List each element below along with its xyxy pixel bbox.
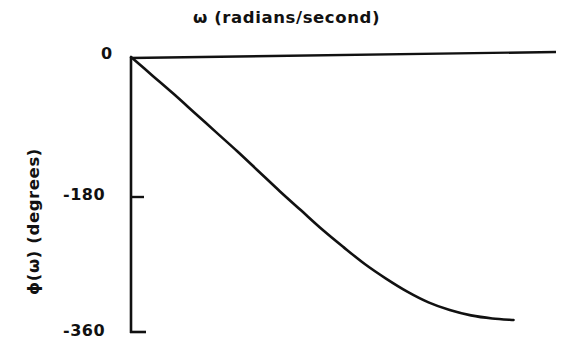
phase-response-curve <box>131 57 514 320</box>
x-axis-zero-line <box>130 52 556 58</box>
phase-plot-figure: ω (radians/second) ϕ(ω) (degrees) 0 -180… <box>0 0 573 354</box>
plot-canvas <box>0 0 573 354</box>
